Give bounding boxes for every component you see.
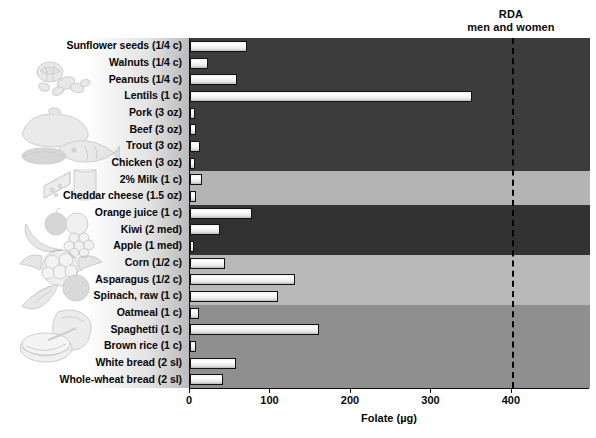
band-fruits [190,205,590,255]
category-label: Chicken (3 oz) [112,157,182,168]
category-label: Lentils (1 c) [124,90,182,101]
x-tick-label: 300 [421,394,439,406]
rda-annotation: RDA men and women [451,8,571,34]
category-label: Spinach, raw (1 c) [94,290,182,301]
category-label: Spaghetti (1 c) [110,324,182,335]
category-label: Whole-wheat bread (2 sl) [60,374,182,385]
category-label: Kiwi (2 med) [121,224,182,235]
x-axis-title: Folate (µg) [189,412,589,424]
category-label: Orange juice (1 c) [95,207,182,218]
category-label: Pork (3 oz) [129,107,182,118]
category-label: Oatmeal (1 c) [117,307,182,318]
category-label: Cheddar cheese (1.5 oz) [63,190,182,201]
rda-reference-line [512,38,514,388]
category-label: Apple (1 med) [113,240,182,251]
x-tick-label: 400 [502,394,520,406]
band-meat-fish-poultry [190,105,590,172]
category-label: Peanuts (1/4 c) [109,74,182,85]
category-label: Brown rice (1 c) [104,340,182,351]
x-tick [511,388,512,393]
x-tick-label: 100 [260,394,278,406]
plot-area [189,38,590,388]
category-label: Corn (1/2 c) [125,257,182,268]
x-tick-label: 200 [341,394,359,406]
x-tick-label: 0 [186,394,192,406]
category-label: Sunflower seeds (1/4 c) [66,40,182,51]
x-tick [269,388,270,393]
x-tick [189,388,190,393]
band-nuts-seeds-legumes [190,38,590,105]
x-axis-line [189,388,589,389]
category-label: Asparagus (1/2 c) [95,274,182,285]
category-label: White bread (2 sl) [95,357,182,368]
rda-label-line1: RDA [451,8,571,21]
x-tick [430,388,431,393]
folate-food-sources-chart: RDA men and women [0,0,596,438]
rda-label-line2: men and women [451,21,571,34]
category-label: 2% Milk (1 c) [120,174,182,185]
category-labels: Sunflower seeds (1/4 c)Walnuts (1/4 c)Pe… [0,38,186,388]
category-label: Beef (3 oz) [129,124,182,135]
band-vegetables [190,255,590,305]
x-tick [350,388,351,393]
category-label: Trout (3 oz) [126,140,182,151]
band-dairy [190,171,590,205]
category-label: Walnuts (1/4 c) [109,57,182,68]
band-grains [190,305,590,388]
